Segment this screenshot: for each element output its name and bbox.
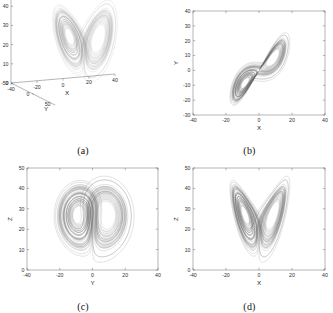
svg-text:0: 0: [62, 82, 65, 88]
svg-text:40: 40: [3, 3, 9, 9]
svg-text:20: 20: [122, 272, 128, 278]
svg-text:20: 20: [19, 226, 25, 232]
svg-text:30: 30: [19, 206, 25, 212]
svg-text:0: 0: [22, 267, 25, 273]
svg-text:Y: Y: [90, 279, 94, 286]
svg-text:40: 40: [155, 272, 161, 278]
svg-text:0: 0: [91, 272, 94, 278]
svg-text:20: 20: [289, 117, 295, 123]
svg-text:0: 0: [258, 117, 261, 123]
svg-text:30: 30: [3, 22, 9, 28]
panel-b: -40-2002040-30-20-10010203040XY (b): [166, 0, 333, 157]
svg-text:30: 30: [185, 206, 191, 212]
svg-text:-20: -20: [33, 84, 41, 90]
svg-text:20: 20: [185, 226, 191, 232]
panel-d: -40-200204001020304050XZ (d): [166, 157, 333, 313]
svg-text:40: 40: [322, 272, 328, 278]
svg-text:Y: Y: [44, 105, 48, 112]
svg-text:20: 20: [86, 79, 92, 85]
svg-text:40: 40: [112, 77, 118, 83]
svg-text:-20: -20: [183, 97, 191, 103]
figure-grid: -40-2002040-5005001020304050XYZ (a) -40-…: [0, 0, 333, 313]
panel-b-plot: -40-2002040-30-20-10010203040XY: [166, 0, 333, 157]
svg-text:-20: -20: [222, 117, 230, 123]
svg-text:10: 10: [185, 52, 191, 58]
svg-text:40: 40: [185, 8, 191, 14]
svg-text:-10: -10: [183, 82, 191, 88]
caption-a: (a): [0, 145, 166, 156]
svg-text:X: X: [257, 279, 261, 286]
svg-text:0: 0: [27, 91, 30, 97]
svg-text:Z: Z: [172, 217, 179, 221]
svg-text:40: 40: [185, 185, 191, 191]
svg-text:Z: Z: [6, 217, 13, 221]
caption-b: (b): [166, 145, 333, 156]
svg-text:30: 30: [185, 23, 191, 29]
svg-text:10: 10: [3, 61, 9, 67]
svg-text:X: X: [257, 124, 261, 131]
svg-text:50: 50: [185, 165, 191, 171]
svg-text:0: 0: [6, 80, 9, 86]
panel-a-plot: -40-2002040-5005001020304050XYZ: [0, 0, 166, 157]
svg-text:20: 20: [289, 272, 295, 278]
svg-text:0: 0: [188, 267, 191, 273]
svg-text:Y: Y: [172, 61, 179, 65]
panel-d-plot: -40-200204001020304050XZ: [166, 157, 333, 313]
svg-text:20: 20: [3, 42, 9, 48]
panel-a: -40-2002040-5005001020304050XYZ (a): [0, 0, 166, 157]
svg-text:40: 40: [19, 185, 25, 191]
svg-text:0: 0: [258, 272, 261, 278]
caption-d: (d): [166, 301, 333, 312]
svg-text:-20: -20: [56, 272, 64, 278]
svg-text:-20: -20: [222, 272, 230, 278]
svg-text:20: 20: [185, 38, 191, 44]
svg-text:50: 50: [19, 165, 25, 171]
svg-text:10: 10: [19, 247, 25, 253]
svg-text:40: 40: [322, 117, 328, 123]
panel-c-plot: -40-200204001020304050YZ: [0, 157, 166, 313]
panel-c: -40-200204001020304050YZ (c): [0, 157, 166, 313]
svg-text:-40: -40: [7, 86, 15, 92]
svg-text:X: X: [65, 89, 69, 96]
svg-text:10: 10: [185, 247, 191, 253]
svg-text:-30: -30: [183, 112, 191, 118]
svg-text:0: 0: [188, 67, 191, 73]
caption-c: (c): [0, 301, 166, 312]
